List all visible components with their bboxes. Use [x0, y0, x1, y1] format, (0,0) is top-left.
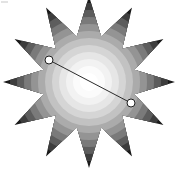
corner-artifact-mark: [1, 1, 8, 3]
radial-ring-0: [80, 73, 98, 91]
annotation-handle-start[interactable]: [45, 56, 53, 64]
annotation-handle-end[interactable]: [127, 99, 135, 107]
starburst-figure: [0, 0, 178, 169]
image-canvas: [0, 0, 178, 169]
